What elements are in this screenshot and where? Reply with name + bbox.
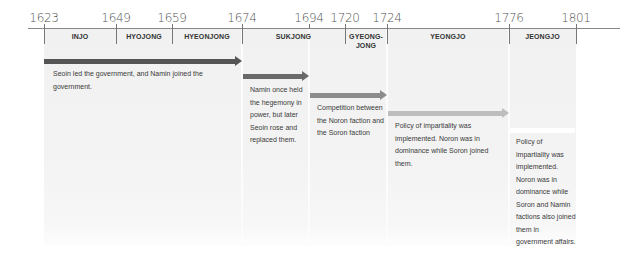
period-description-1694-1724: Competition between the Noron faction an… — [317, 102, 385, 140]
arrowhead-icon — [502, 108, 509, 118]
reign-hyeonjong: HYEONJONG — [172, 32, 242, 41]
period-arrow-1776-1801 — [510, 128, 575, 133]
column-separator — [386, 28, 388, 246]
reign-yeongjo: YEONGJO — [387, 32, 509, 41]
period-description-1724-1776: Policy of impartiality was implemented. … — [395, 120, 505, 170]
year-label: 1659 — [157, 11, 186, 25]
column-separator — [508, 28, 510, 246]
column-separator — [308, 28, 310, 246]
arrowhead-icon — [302, 71, 309, 81]
year-label: 1776 — [494, 11, 523, 25]
period-description-1674-1694: Namin once held the hegemony in power, b… — [250, 84, 308, 147]
year-label: 1724 — [372, 11, 401, 25]
period-arrow-1623-1674 — [44, 59, 242, 64]
year-label: 1623 — [29, 11, 58, 25]
year-label: 1694 — [294, 11, 323, 25]
year-label: 1674 — [227, 11, 256, 25]
year-label: 1720 — [330, 11, 359, 25]
tick-1801 — [576, 24, 577, 44]
year-label: 1801 — [561, 11, 590, 25]
period-arrow-1694-1724 — [310, 93, 387, 98]
timeline-diagram: 1623 1649 1659 1674 1694 1720 1724 1776 … — [0, 0, 626, 255]
reign-gyeongjong-line2: JONG — [345, 41, 387, 50]
reign-hyojong: HYOJONG — [116, 32, 172, 41]
arrowhead-icon — [235, 56, 242, 66]
arrowhead-icon — [380, 90, 387, 100]
period-arrow-1674-1694 — [243, 74, 309, 79]
reign-gyeongjong-line1: GYEONG- — [345, 32, 387, 41]
period-description-1623-1674: Seoin led the government, and Namin join… — [53, 68, 213, 93]
reign-jeongjo: JEONGJO — [509, 32, 576, 41]
period-description-1776-1801: Policy of impartiality was implemented. … — [516, 136, 576, 249]
reign-sukjong: SUKJONG — [242, 32, 345, 41]
year-label: 1649 — [101, 11, 130, 25]
reign-injo: INJO — [44, 32, 116, 41]
period-arrow-1724-1776 — [388, 111, 509, 116]
reign-gyeongjong: GYEONG- JONG — [345, 32, 387, 50]
